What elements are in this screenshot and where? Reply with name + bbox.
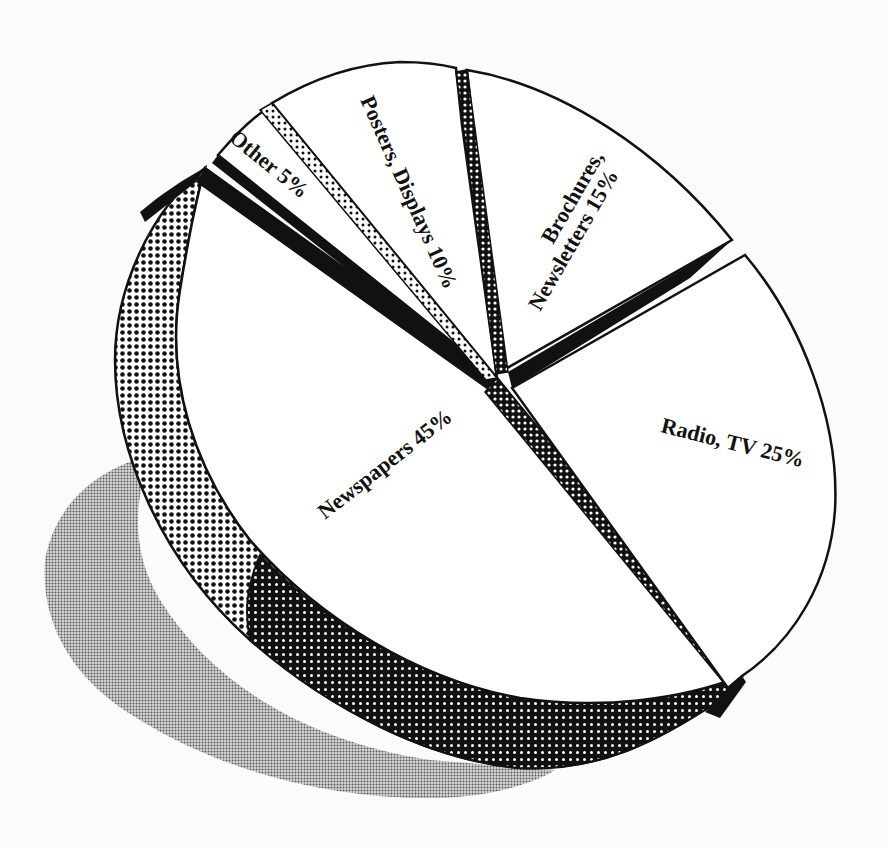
pie-chart: Newspapers 45% Other 5% Posters, Display… [0,0,887,848]
